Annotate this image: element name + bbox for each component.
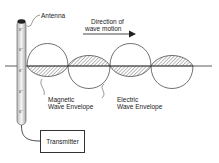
antenna-label: Antenna [41,12,65,19]
direction-label-line2: wave motion [85,25,122,32]
magnetic-label-line1: Magnetic [48,96,74,103]
electric-label-line1: Electric [117,96,138,103]
direction-label-line1: Direction of [91,18,124,25]
transmitter-label: Transmitter [46,138,79,145]
antenna-mark: 6" [19,47,23,52]
antenna-leader [27,15,40,26]
magnetic-leader [41,79,44,95]
electric-leader [102,84,104,98]
magnetic-label-line2: Wave Envelope [48,103,93,110]
antenna-mark: 6" [19,89,23,94]
electric-label-line2: Wave Envelope [117,103,162,110]
antenna-mark: 6" [19,27,23,32]
transmitter-box: Transmitter [40,130,85,153]
antenna-cable [22,125,41,141]
antenna-mark: 6" [19,109,23,114]
antenna-mark: 6" [19,68,23,73]
